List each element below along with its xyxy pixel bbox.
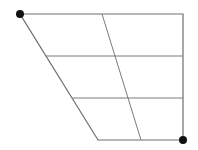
diagram-canvas [0,0,198,150]
top-left-vertex-dot [16,10,24,18]
bottom-right-vertex-dot [179,136,187,144]
vertex-dots [16,10,187,144]
trapezoid-grid-diagram [0,0,198,150]
trapezoid-outline [20,14,183,140]
horizontal-gridlines [46,56,183,98]
inner-slanted-line [102,14,141,140]
